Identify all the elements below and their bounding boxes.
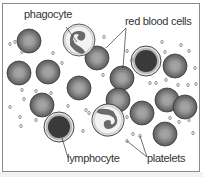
red-blood-cell [163, 54, 187, 78]
red-blood-cell [173, 95, 197, 119]
red-blood-cell [36, 60, 60, 84]
phagocyte-cell [63, 24, 95, 56]
red-blood-cell [17, 29, 41, 53]
red-blood-cell [7, 61, 31, 85]
red-blood-cell [153, 122, 177, 146]
label-platelets: platelets [147, 152, 185, 164]
red-blood-cell [67, 76, 91, 100]
label-lymphocyte: lymphocyte [67, 152, 120, 164]
lymphocyte-cell [44, 112, 74, 142]
red-blood-cell [130, 101, 154, 125]
red-blood-cell [30, 93, 54, 117]
label-red-blood-cells: red blood cells [125, 15, 191, 27]
label-phagocyte: phagocyte [24, 8, 72, 20]
red-blood-cell [110, 66, 134, 90]
lymphocyte-cell [131, 46, 161, 76]
